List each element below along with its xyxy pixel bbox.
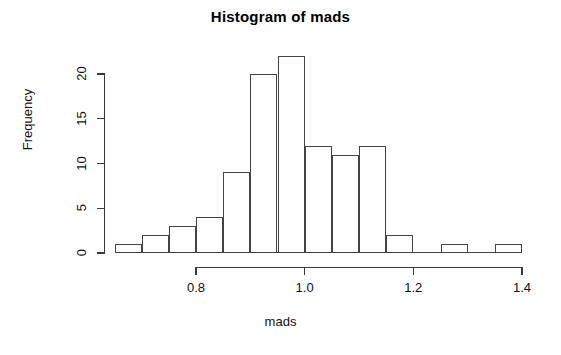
histogram-bar xyxy=(142,235,169,253)
y-tick-15 xyxy=(97,118,105,119)
x-axis-line xyxy=(196,267,522,268)
y-tick-5 xyxy=(97,208,105,209)
y-tick-20 xyxy=(97,73,105,74)
y-tick-label-15: 15 xyxy=(74,103,89,133)
histogram-bar xyxy=(359,146,386,253)
plot-area: 051015200.81.01.21.4 xyxy=(0,0,561,355)
x-tick-label-1.0: 1.0 xyxy=(285,280,325,295)
y-tick-label-10: 10 xyxy=(74,148,89,178)
histogram-bar xyxy=(386,235,413,253)
histogram-bar xyxy=(196,217,223,253)
y-tick-10 xyxy=(97,163,105,164)
histogram-bar xyxy=(278,56,305,253)
histogram-plot: Histogram of mads Frequency mads 0510152… xyxy=(0,0,561,355)
y-tick-label-20: 20 xyxy=(74,59,89,89)
y-tick-label-0: 0 xyxy=(74,238,89,268)
x-tick-1.4 xyxy=(521,267,522,275)
y-tick-label-5: 5 xyxy=(74,193,89,223)
x-tick-label-0.8: 0.8 xyxy=(176,280,216,295)
x-tick-label-1.2: 1.2 xyxy=(393,280,433,295)
x-tick-1.0 xyxy=(304,267,305,275)
x-tick-0.8 xyxy=(195,267,196,275)
y-tick-0 xyxy=(97,252,105,253)
histogram-bar xyxy=(305,146,332,253)
histogram-bar xyxy=(223,172,250,253)
x-tick-label-1.4: 1.4 xyxy=(502,280,542,295)
histogram-bar xyxy=(332,155,359,253)
x-tick-1.2 xyxy=(413,267,414,275)
histogram-bar xyxy=(250,74,277,253)
bar-baseline xyxy=(115,252,523,253)
histogram-bar xyxy=(169,226,196,253)
